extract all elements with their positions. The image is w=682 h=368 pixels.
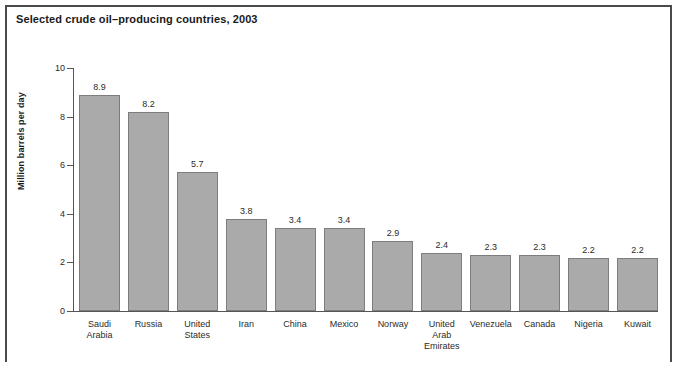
x-axis-category-label: United Arab Emirates — [414, 319, 469, 352]
bar-value-label: 2.3 — [470, 242, 511, 252]
y-axis-line — [73, 68, 74, 312]
y-axis-tick-label: 0 — [39, 306, 65, 316]
bar-value-label: 8.2 — [128, 99, 169, 109]
x-axis-category-label: China — [268, 319, 323, 330]
x-axis-category-label: Kuwait — [610, 319, 665, 330]
bar-value-label: 3.8 — [226, 206, 267, 216]
y-axis-tick — [67, 214, 73, 215]
y-axis-tick-label: 8 — [39, 112, 65, 122]
bar-value-label: 2.9 — [372, 228, 413, 238]
x-axis-line — [73, 311, 658, 312]
bar — [421, 253, 462, 311]
y-axis-tick — [67, 68, 73, 69]
bar-value-label: 2.2 — [568, 245, 609, 255]
x-axis-category-label: Saudi Arabia — [72, 319, 127, 341]
x-axis-category-label: United States — [170, 319, 225, 341]
bar — [470, 255, 511, 311]
y-axis-tick — [67, 262, 73, 263]
y-axis-tick — [67, 117, 73, 118]
bar-value-label: 3.4 — [275, 215, 316, 225]
bar-value-label: 3.4 — [324, 215, 365, 225]
bar — [519, 255, 560, 311]
plot-area: Million barrels per day 0246810 8.9Saudi… — [0, 0, 682, 368]
x-axis-category-label: Venezuela — [463, 319, 518, 330]
x-axis-category-label: Canada — [512, 319, 567, 330]
bar-value-label: 2.2 — [617, 245, 658, 255]
x-axis-category-label: Mexico — [317, 319, 372, 330]
y-axis-tick — [67, 165, 73, 166]
bar — [275, 228, 316, 311]
bar-value-label: 2.4 — [421, 240, 462, 250]
bar — [226, 219, 267, 311]
y-axis-tick-label: 4 — [39, 209, 65, 219]
y-axis-tick-label: 2 — [39, 257, 65, 267]
bar-value-label: 8.9 — [79, 82, 120, 92]
bar — [79, 95, 120, 311]
y-axis-title: Million barrels per day — [16, 92, 26, 190]
x-axis-category-label: Iran — [219, 319, 274, 330]
bar — [617, 258, 658, 311]
bar — [324, 228, 365, 311]
x-axis-category-label: Norway — [365, 319, 420, 330]
bar — [568, 258, 609, 311]
bar-value-label: 5.7 — [177, 159, 218, 169]
bar — [128, 112, 169, 311]
y-axis-tick-label: 6 — [39, 160, 65, 170]
bar — [177, 172, 218, 311]
x-axis-category-label: Russia — [121, 319, 176, 330]
y-axis-tick — [67, 311, 73, 312]
bar-value-label: 2.3 — [519, 242, 560, 252]
y-axis-tick-label: 10 — [39, 63, 65, 73]
bar — [372, 241, 413, 311]
chart-figure: Selected crude oil–producing countries, … — [0, 0, 682, 368]
x-axis-category-label: Nigeria — [561, 319, 616, 330]
